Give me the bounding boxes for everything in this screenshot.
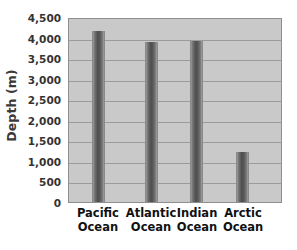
- x-category-label: ArcticOcean: [223, 206, 263, 234]
- bar: [145, 42, 158, 202]
- y-tick-label: 3,500: [28, 53, 61, 65]
- x-category-label-line2: Ocean: [77, 220, 119, 234]
- y-tick-label: 0: [54, 197, 61, 209]
- x-category-label-line2: Ocean: [223, 220, 263, 234]
- y-axis-title-label: Depth (m): [4, 69, 19, 141]
- plot-area: [68, 18, 282, 203]
- x-category-label: AtlanticOcean: [126, 206, 177, 234]
- x-category-label-line2: Ocean: [177, 220, 218, 234]
- x-category-label-line1: Atlantic: [126, 206, 177, 220]
- y-tick-label: 1,000: [28, 156, 61, 168]
- x-category-label-line1: Arctic: [224, 206, 262, 220]
- x-category-label: IndianOcean: [177, 206, 218, 234]
- y-tick-label: 3,000: [28, 74, 61, 86]
- x-category-label-line1: Pacific: [77, 206, 119, 220]
- x-axis-category-labels: PacificOceanAtlanticOceanIndianOceanArct…: [68, 206, 282, 248]
- bar: [92, 31, 105, 202]
- bar-chart-figure: Depth (m) 05001,0001,5002,0002,5003,0003…: [0, 0, 297, 250]
- y-tick-label: 500: [39, 176, 61, 188]
- y-axis-tick-labels: 05001,0001,5002,0002,5003,0003,5004,0004…: [20, 18, 65, 203]
- y-tick-label: 2,500: [28, 94, 61, 106]
- y-tick-label: 4,500: [28, 12, 61, 24]
- y-axis-title: Depth (m): [0, 0, 22, 210]
- x-category-label-line1: Indian: [177, 206, 218, 220]
- x-category-label: PacificOcean: [77, 206, 119, 234]
- x-category-label-line2: Ocean: [126, 220, 177, 234]
- bar: [190, 41, 203, 202]
- y-tick-label: 4,000: [28, 33, 61, 45]
- y-tick-label: 2,000: [28, 115, 61, 127]
- y-tick-label: 1,500: [28, 135, 61, 147]
- bar: [236, 152, 249, 202]
- bars-layer: [69, 19, 281, 202]
